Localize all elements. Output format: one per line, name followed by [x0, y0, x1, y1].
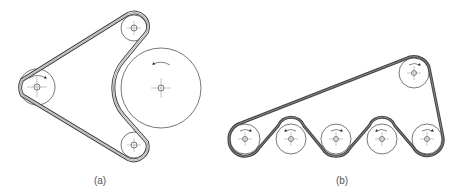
- pulley-1: [230, 124, 260, 154]
- pulley-4: [367, 124, 397, 154]
- diagram-b: [229, 56, 443, 156]
- belt-drive-diagrams: [0, 0, 456, 196]
- pulley-large-driven: [121, 48, 201, 128]
- caption-a: (a): [94, 175, 106, 186]
- pulley-driver-left: [19, 69, 55, 105]
- pulley-top: [399, 58, 429, 88]
- pulley-2: [276, 124, 306, 154]
- diagram-a: [19, 13, 201, 161]
- pulley-3: [321, 124, 351, 154]
- caption-b: (b): [336, 175, 348, 186]
